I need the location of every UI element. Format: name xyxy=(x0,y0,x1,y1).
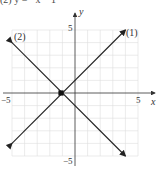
y-tick-neg5: −5 xyxy=(63,157,73,166)
line-2-label: (2) xyxy=(14,32,26,42)
y-tick-5: 5 xyxy=(68,24,73,33)
x-tick-neg5: −5 xyxy=(1,96,11,105)
y-axis-label: y xyxy=(79,7,83,17)
line-1 xyxy=(12,30,125,143)
x-axis-label: x xyxy=(151,97,155,107)
line-1-label: (1) xyxy=(126,28,138,38)
intersection-point xyxy=(58,90,63,95)
coordinate-plane xyxy=(0,0,158,169)
line-2 xyxy=(12,43,125,156)
x-tick-5: 5 xyxy=(136,96,141,105)
